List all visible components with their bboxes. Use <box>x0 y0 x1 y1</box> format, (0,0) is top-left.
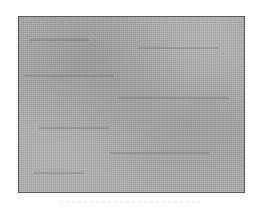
texture-streak <box>24 75 114 77</box>
caption-artifact <box>60 201 200 203</box>
texture-streak <box>34 172 84 174</box>
texture-streak <box>119 97 229 99</box>
image-canvas <box>0 0 262 209</box>
texture-streak <box>109 152 209 154</box>
texture-streak <box>39 127 109 129</box>
texture-streak <box>29 39 89 41</box>
textured-gray-panel <box>18 16 245 193</box>
texture-streak <box>139 47 219 49</box>
